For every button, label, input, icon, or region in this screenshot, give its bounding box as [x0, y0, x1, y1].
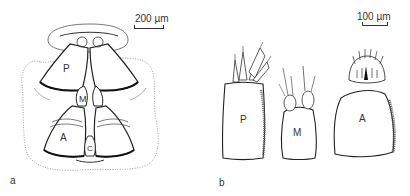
panel-b-illustration	[205, 0, 410, 196]
part-label-m: M	[293, 128, 301, 138]
panel-label-a: a	[10, 176, 16, 186]
panel-label-b: b	[219, 178, 225, 188]
scale-bar	[134, 25, 164, 29]
scale-bar	[362, 22, 388, 26]
scale-bar-label: 100 µm	[357, 12, 391, 22]
part-label-p: P	[63, 64, 70, 74]
part-label-a: A	[60, 133, 67, 143]
scale-bar-label: 200 µm	[135, 14, 169, 24]
panel-a-illustration	[0, 0, 205, 196]
panel-b: 100 µm P M A b	[205, 0, 410, 196]
part-label-m: M	[79, 95, 87, 104]
panel-a: 200 µm P M A C a	[0, 0, 205, 196]
part-label-c: C	[87, 145, 93, 153]
part-label-a: A	[359, 114, 366, 124]
part-label-p: P	[240, 115, 247, 125]
